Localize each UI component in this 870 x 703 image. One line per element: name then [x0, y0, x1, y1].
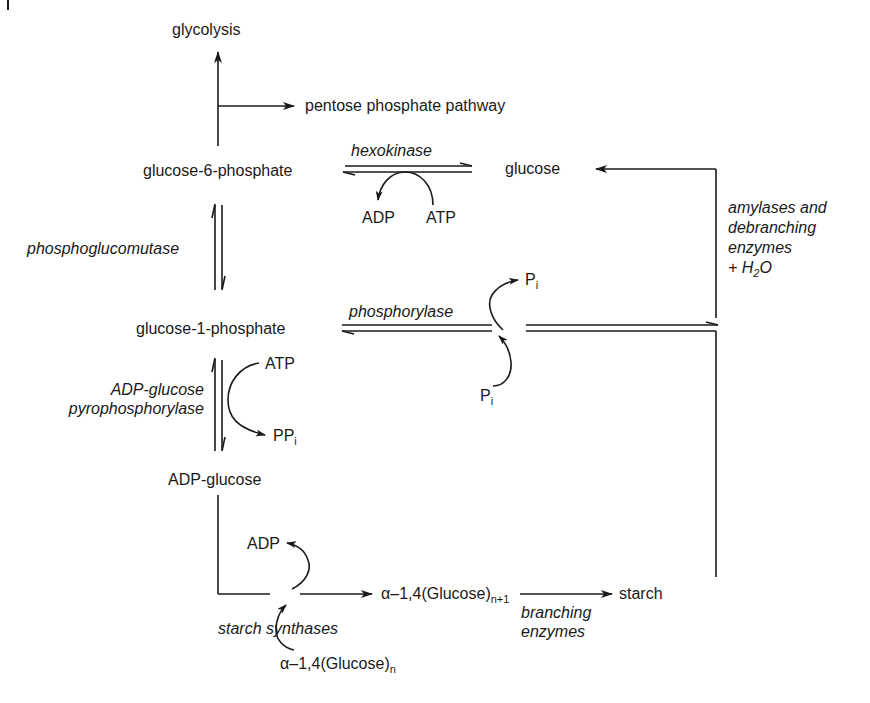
cofactor-ppi: PPi	[273, 428, 297, 444]
node-adp-glucose: ADP-glucose	[168, 472, 261, 488]
cofactor-pi-consumed: Pi	[480, 388, 493, 404]
enzyme-hexokinase: hexokinase	[351, 143, 432, 159]
node-glucan-n-plus-1: α–1,4(Glucose)n+1	[381, 586, 509, 602]
cofactor-atp: ATP	[265, 356, 295, 372]
cofactor-hexokinase-atp: ATP	[426, 210, 456, 226]
node-glycolysis: glycolysis	[172, 22, 240, 38]
enzyme-phosphorylase: phosphorylase	[349, 304, 453, 320]
node-pentose-phosphate-pathway: pentose phosphate pathway	[305, 98, 505, 114]
node-glucose-6-phosphate: glucose-6-phosphate	[143, 163, 292, 179]
cofactor-hexokinase-adp: ADP	[362, 210, 395, 226]
node-glucose: glucose	[505, 161, 560, 177]
enzyme-starch-synthases: starch synthases	[218, 621, 338, 637]
enzyme-amylases-debranching: amylases and debranching enzymes + H2O	[728, 198, 827, 278]
enzyme-branching: branching enzymes	[521, 603, 591, 641]
cofactor-pi-released: Pi	[525, 272, 538, 288]
enzyme-adp-glucose-pyrophosphorylase: ADP-glucose pyrophosphorylase	[40, 382, 204, 417]
enzyme-phosphoglucomutase: phosphoglucomutase	[27, 241, 179, 257]
cofactor-starch-synthase-adp: ADP	[247, 536, 280, 552]
node-glucan-n: α–1,4(Glucose)n	[280, 656, 396, 672]
node-starch: starch	[619, 586, 663, 602]
node-glucose-1-phosphate: glucose-1-phosphate	[136, 321, 285, 337]
